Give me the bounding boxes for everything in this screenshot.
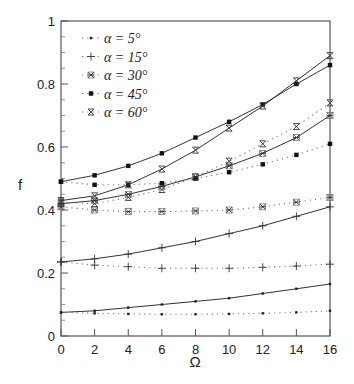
series-3	[57, 258, 334, 272]
data-point	[329, 310, 331, 312]
y-tick-label: 0.4	[37, 203, 55, 218]
data-point	[192, 264, 200, 272]
data-point	[295, 288, 297, 290]
data-point	[192, 238, 200, 246]
data-point	[226, 158, 232, 164]
square-marker	[59, 179, 63, 183]
axis-ticks: 024681012141600.20.40.60.81	[37, 14, 337, 357]
data-point	[194, 313, 196, 315]
x-tick-label: 16	[323, 342, 337, 357]
hourglass-marker	[226, 158, 232, 164]
legend-item: α = 15°	[82, 50, 148, 65]
data-point	[260, 141, 266, 147]
data-point	[193, 147, 199, 153]
data-point	[161, 303, 163, 305]
data-point	[59, 179, 63, 183]
data-point	[292, 212, 300, 220]
data-point	[293, 135, 299, 141]
data-point	[92, 173, 96, 177]
legend-label: α = 30°	[104, 68, 148, 83]
series-6	[59, 63, 332, 184]
legend: α = 5°α = 15°α = 30°α = 45°α = 60°	[82, 31, 148, 120]
y-axis-label: f	[18, 176, 23, 193]
square-marker	[160, 181, 164, 185]
square-marker	[227, 120, 231, 124]
marker-plus	[87, 53, 95, 61]
y-tick-label: 1	[48, 14, 55, 29]
data-point	[328, 63, 332, 67]
legend-label: α = 5°	[104, 31, 141, 46]
y-tick-label: 0	[48, 329, 55, 344]
data-point	[259, 263, 267, 271]
x-tick-label: 4	[125, 342, 132, 357]
series-5	[58, 194, 333, 214]
data-point	[295, 311, 297, 313]
data-point	[159, 209, 165, 215]
data-point	[160, 151, 164, 155]
data-point	[259, 222, 267, 230]
data-point	[161, 313, 163, 315]
data-point	[228, 313, 230, 315]
legend-item: α = 45°	[82, 87, 148, 102]
data-point	[193, 135, 197, 139]
series-line-solid	[61, 207, 330, 262]
legend-item: α = 5°	[82, 31, 141, 46]
dot-marker	[90, 37, 92, 39]
series-line-solid	[61, 116, 330, 204]
legend-label: α = 15°	[104, 50, 148, 65]
square-marker	[261, 162, 265, 166]
series-group	[57, 53, 334, 316]
data-point	[225, 230, 233, 238]
series-line-solid	[61, 284, 330, 312]
data-point	[158, 264, 166, 272]
hourglass-marker	[293, 124, 299, 130]
dot-marker	[262, 292, 264, 294]
data-point	[228, 297, 230, 299]
square-marker	[294, 153, 298, 157]
square-marker	[160, 151, 164, 155]
data-point	[226, 207, 232, 213]
data-point	[328, 142, 332, 146]
square-marker	[92, 173, 96, 177]
data-point	[125, 209, 131, 215]
dot-marker	[228, 313, 230, 315]
data-point	[227, 170, 231, 174]
data-point	[124, 263, 132, 271]
x-tick-label: 2	[91, 342, 98, 357]
data-point	[127, 306, 129, 308]
marker-asterisk	[88, 72, 94, 78]
square-marker	[89, 91, 93, 95]
data-point	[262, 312, 264, 314]
dot-marker	[93, 310, 95, 312]
x-tick-label: 6	[158, 342, 165, 357]
chart: 024681012141600.20.40.60.81 α = 5°α = 15…	[0, 0, 354, 384]
square-marker	[126, 164, 130, 168]
x-tick-label: 0	[57, 342, 64, 357]
hourglass-marker	[193, 147, 199, 153]
dot-marker	[194, 300, 196, 302]
data-point	[159, 166, 165, 172]
data-point	[260, 204, 266, 210]
y-tick-label: 0.8	[37, 77, 55, 92]
data-point	[293, 199, 299, 205]
data-point	[193, 208, 199, 214]
series-2	[57, 203, 334, 266]
data-point	[93, 312, 95, 314]
square-marker	[227, 170, 231, 174]
dot-marker	[194, 313, 196, 315]
data-point	[261, 162, 265, 166]
legend-label: α = 60°	[104, 105, 148, 120]
data-point	[126, 164, 130, 168]
series-line-solid	[61, 65, 330, 182]
dot-marker	[127, 306, 129, 308]
data-point	[93, 310, 95, 312]
dot-marker	[295, 288, 297, 290]
dot-marker	[161, 303, 163, 305]
marker-square	[89, 91, 93, 95]
x-axis-label: Ω	[189, 353, 200, 370]
legend-label: α = 45°	[104, 87, 148, 102]
hourglass-marker	[159, 166, 165, 172]
hourglass-marker	[260, 141, 266, 147]
dot-marker	[329, 283, 331, 285]
y-tick-label: 0.2	[37, 266, 55, 281]
